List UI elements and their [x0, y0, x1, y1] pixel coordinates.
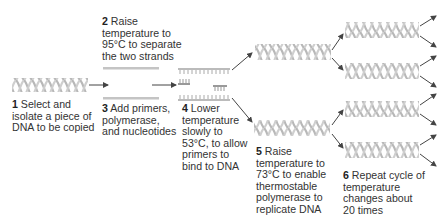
step-number: 4 — [182, 102, 188, 114]
step-number: 2 — [102, 15, 108, 27]
annealed-strands — [178, 68, 230, 101]
step-text: Raise temperature to 95°C to separate th… — [102, 15, 182, 62]
step-text: Lower temperature slowly to 53°C, to all… — [182, 102, 247, 172]
step-2-label: 2 Raise temperature to 95°C to separate … — [102, 16, 182, 62]
step-3-label: 3 Add primers, polymerase, and nucleotid… — [102, 103, 176, 138]
dna-helix-cycle2-4 — [345, 142, 419, 158]
step-text: Raise temperature to 73°C to enable ther… — [256, 145, 326, 215]
step-number: 5 — [256, 145, 262, 157]
separated-strand-bottom — [103, 97, 159, 100]
step-1-label: 1 Select and isolate a piece of DNA to b… — [12, 99, 94, 134]
step-text: Add primers, polymerase, and nucleotides — [102, 102, 176, 137]
dna-helix-original — [12, 78, 88, 92]
step-text: Repeat cycle of temperature changes abou… — [343, 169, 425, 216]
step-5-label: 5 Raise temperature to 73°C to enable th… — [256, 146, 326, 216]
dna-helix-cycle1-top — [255, 44, 331, 60]
dna-helix-cycle2-1 — [345, 22, 419, 38]
dna-helix-cycle2-3 — [345, 101, 419, 117]
step-number: 6 — [343, 169, 349, 181]
step-4-label: 4 Lower temperature slowly to 53°C, to a… — [182, 103, 247, 173]
step-text: Select and isolate a piece of DNA to be … — [12, 98, 94, 133]
step-number: 3 — [102, 102, 108, 114]
step-number: 1 — [12, 98, 18, 110]
dna-helix-cycle1-bottom — [254, 120, 330, 136]
step-6-label: 6 Repeat cycle of temperature changes ab… — [343, 170, 425, 216]
separated-strand-top — [103, 67, 159, 70]
dna-helix-cycle2-2 — [345, 63, 419, 79]
